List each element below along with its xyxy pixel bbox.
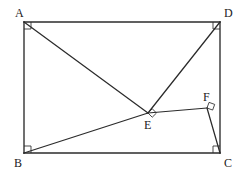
vertex-label-B: B [14,156,22,170]
right-angle-marks [24,22,220,153]
segment-BE [24,113,148,153]
segment-EF [148,108,207,113]
vertex-label-D: D [224,6,233,20]
geometry-figure: A B C D E F [0,0,242,175]
vertex-label-E: E [144,118,151,132]
vertex-label-F: F [203,90,210,104]
geometry-canvas: A B C D E F [0,0,242,175]
vertex-label-A: A [15,6,24,20]
vertex-label-C: C [224,156,232,170]
segment-AE [24,22,148,113]
